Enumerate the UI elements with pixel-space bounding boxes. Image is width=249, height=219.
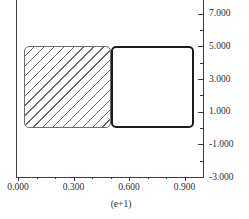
y-tick-label: 5.000 [209, 41, 230, 52]
x-major-tick [185, 177, 186, 181]
y-major-tick [198, 144, 204, 145]
y-major-tick [198, 177, 204, 178]
y-minor-tick [200, 161, 204, 162]
x-minor-tick [37, 177, 38, 179]
y-minor-tick [200, 63, 204, 64]
x-tick-label: 0.900 [174, 182, 195, 193]
right-axis-line [203, 0, 204, 178]
y-minor-tick [200, 95, 204, 96]
y-minor-tick [200, 30, 204, 31]
x-minor-tick [148, 177, 149, 179]
y-minor-tick [200, 128, 204, 129]
hatched-bar [24, 46, 111, 128]
y-major-tick [198, 46, 204, 47]
y-major-tick [198, 79, 204, 80]
chart-figure: 0.0000.3000.6000.9007.0005.0003.0001.000… [0, 0, 249, 219]
plot-area: 0.0000.3000.6000.9007.0005.0003.0001.000… [0, 0, 249, 219]
x-major-tick [18, 177, 19, 181]
x-minor-tick [92, 177, 93, 179]
x-tick-label: 0.600 [118, 182, 139, 193]
x-tick-label: 0.000 [7, 182, 28, 193]
x-minor-tick [166, 177, 167, 179]
y-tick-label: 1.000 [209, 106, 230, 117]
x-major-tick [74, 177, 75, 181]
y-tick-label: 7.000 [209, 8, 230, 19]
x-minor-tick [111, 177, 112, 179]
x-minor-tick [55, 177, 56, 179]
y-tick-label: -3.000 [209, 172, 234, 183]
y-tick-label: -1.000 [209, 139, 234, 150]
left-axis-line [16, 0, 17, 178]
y-tick-label: 3.000 [209, 74, 230, 85]
outlined-bar [111, 46, 194, 128]
x-major-tick [129, 177, 130, 181]
x-axis-title: (e+1) [111, 199, 132, 209]
x-tick-label: 0.300 [63, 182, 84, 193]
y-major-tick [198, 112, 204, 113]
y-major-tick [198, 14, 204, 15]
